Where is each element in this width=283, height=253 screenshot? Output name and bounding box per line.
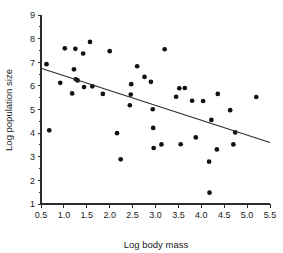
- data-point: [44, 62, 49, 67]
- data-point: [82, 85, 87, 90]
- y-tick-label: 9: [30, 10, 35, 20]
- y-axis-ticks: 123456789: [30, 10, 41, 209]
- data-point: [73, 46, 78, 51]
- data-point: [207, 190, 212, 195]
- y-tick-label: 4: [30, 128, 35, 138]
- y-axis-label: Log population size: [3, 69, 14, 151]
- data-point: [118, 157, 123, 162]
- y-tick-label: 5: [30, 105, 35, 115]
- data-point: [209, 118, 214, 123]
- data-point: [100, 92, 105, 97]
- data-point: [178, 142, 183, 147]
- data-point: [228, 108, 233, 113]
- data-point: [190, 98, 195, 103]
- data-point: [107, 49, 112, 54]
- trend-line: [41, 68, 270, 142]
- data-points: [44, 40, 258, 195]
- data-point: [47, 128, 52, 133]
- regression-line: [41, 68, 270, 142]
- x-tick-label: 4.5: [218, 210, 231, 220]
- data-point: [231, 142, 236, 147]
- data-point: [177, 86, 182, 91]
- data-point: [135, 64, 140, 69]
- x-tick-label: 1.0: [58, 210, 71, 220]
- data-point: [159, 142, 164, 147]
- y-tick-label: 1: [30, 199, 35, 209]
- data-point: [150, 107, 155, 112]
- x-tick-label: 0.5: [35, 210, 48, 220]
- plot-canvas: 0.51.01.52.02.53.03.54.04.55.05.5 123456…: [0, 0, 283, 253]
- data-point: [151, 126, 156, 131]
- x-tick-label: 4.0: [195, 210, 208, 220]
- data-point: [182, 86, 187, 91]
- data-point: [115, 131, 120, 136]
- y-tick-label: 3: [30, 152, 35, 162]
- y-tick-label: 2: [30, 176, 35, 186]
- data-point: [215, 92, 220, 97]
- data-point: [72, 67, 77, 72]
- y-tick-label: 7: [30, 58, 35, 68]
- data-point: [207, 159, 212, 164]
- x-tick-label: 5.5: [264, 210, 277, 220]
- data-point: [215, 147, 220, 152]
- data-point: [129, 82, 134, 87]
- data-point: [128, 103, 133, 108]
- data-point: [193, 135, 198, 140]
- data-point: [88, 40, 93, 45]
- data-point: [149, 80, 154, 85]
- scatter-plot-figure: 0.51.01.52.02.53.03.54.04.55.05.5 123456…: [0, 0, 283, 253]
- data-point: [62, 46, 67, 51]
- data-point: [81, 51, 86, 56]
- x-axis-ticks: 0.51.01.52.02.53.03.54.04.55.05.5: [35, 204, 277, 220]
- x-tick-label: 1.5: [81, 210, 94, 220]
- x-axis-label: Log body mass: [124, 239, 189, 250]
- y-tick-label: 6: [30, 81, 35, 91]
- y-tick-label: 8: [30, 34, 35, 44]
- data-point: [174, 94, 179, 99]
- x-tick-label: 5.0: [241, 210, 254, 220]
- data-point: [142, 75, 147, 80]
- x-tick-label: 3.0: [149, 210, 162, 220]
- data-point: [201, 99, 206, 104]
- data-point: [162, 47, 167, 52]
- axes: [41, 15, 270, 204]
- data-point: [254, 95, 259, 100]
- x-tick-label: 2.0: [103, 210, 116, 220]
- data-point: [58, 80, 63, 85]
- data-point: [151, 146, 156, 151]
- x-tick-label: 3.5: [172, 210, 185, 220]
- data-point: [70, 91, 75, 96]
- x-tick-label: 2.5: [126, 210, 139, 220]
